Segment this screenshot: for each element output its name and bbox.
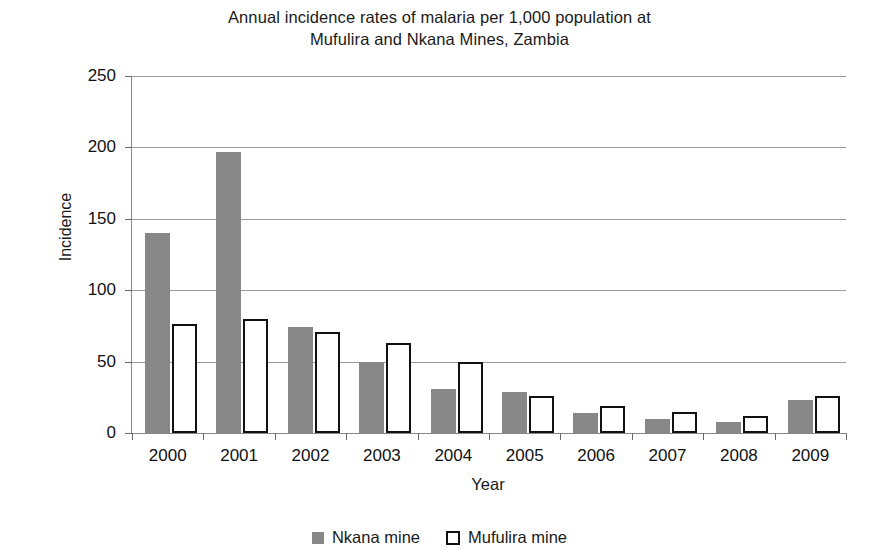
x-tickmark-4 xyxy=(418,433,419,440)
x-axis-title: Year xyxy=(131,475,845,494)
x-tickmark-9 xyxy=(775,433,776,440)
bar-group-2005 xyxy=(489,76,560,433)
y-tickmark-100 xyxy=(125,290,132,291)
y-tick-label-100: 100 xyxy=(54,280,116,300)
legend-label-nkana-mine: Nkana mine xyxy=(332,528,420,547)
bar-group-2004 xyxy=(418,76,489,433)
bar-mufulira-2000[interactable] xyxy=(172,324,197,433)
bar-nkana-2006[interactable] xyxy=(573,413,598,433)
bar-nkana-2000[interactable] xyxy=(145,233,170,433)
legend-label-mufulira-mine: Mufulira mine xyxy=(468,528,567,547)
bar-mufulira-2007[interactable] xyxy=(672,412,697,433)
x-tick-label-2009: 2009 xyxy=(775,446,846,466)
bar-mufulira-2008[interactable] xyxy=(743,416,768,433)
x-tickmark-6 xyxy=(560,433,561,440)
y-tick-label-200: 200 xyxy=(54,137,116,157)
outlined-white-square-icon xyxy=(446,531,460,545)
y-tick-label-250: 250 xyxy=(54,66,116,86)
bar-nkana-2009[interactable] xyxy=(788,400,813,433)
x-tickmark-8 xyxy=(703,433,704,440)
y-tickmark-50 xyxy=(125,362,132,363)
bar-nkana-2004[interactable] xyxy=(431,389,456,433)
bar-mufulira-2004[interactable] xyxy=(458,362,483,433)
legend-item-nkana-mine[interactable]: Nkana mine xyxy=(312,528,420,547)
x-tick-label-2008: 2008 xyxy=(703,446,774,466)
bar-group-2007 xyxy=(632,76,703,433)
bar-group-2001 xyxy=(203,76,274,433)
x-tickmark-3 xyxy=(346,433,347,440)
bar-group-2003 xyxy=(346,76,417,433)
bar-nkana-2001[interactable] xyxy=(216,152,241,433)
bar-group-2000 xyxy=(132,76,203,433)
bar-nkana-2005[interactable] xyxy=(502,392,527,433)
x-tick-label-2002: 2002 xyxy=(275,446,346,466)
bar-nkana-2002[interactable] xyxy=(288,327,313,433)
x-tickmark-5 xyxy=(489,433,490,440)
y-tickmark-250 xyxy=(125,76,132,77)
bar-mufulira-2002[interactable] xyxy=(315,332,340,433)
x-tick-label-2001: 2001 xyxy=(203,446,274,466)
y-tickmark-0 xyxy=(125,433,132,434)
y-tickmark-150 xyxy=(125,219,132,220)
x-tick-label-2003: 2003 xyxy=(346,446,417,466)
bar-group-2008 xyxy=(703,76,774,433)
bar-mufulira-2005[interactable] xyxy=(529,396,554,433)
plot-area: 2000 2001 2002 2003 2004 2005 2006 2007 … xyxy=(131,76,846,434)
y-axis-tick-labels: 0 50 100 150 200 250 xyxy=(54,0,116,556)
chart-legend: Nkana mine Mufulira mine xyxy=(0,528,879,547)
x-tickmark-10 xyxy=(846,433,847,440)
filled-gray-square-icon xyxy=(312,532,324,544)
x-tick-label-2006: 2006 xyxy=(560,446,631,466)
bar-group-2009 xyxy=(775,76,846,433)
x-tick-label-2005: 2005 xyxy=(489,446,560,466)
bar-mufulira-2009[interactable] xyxy=(815,396,840,433)
x-tickmark-7 xyxy=(632,433,633,440)
y-tickmark-200 xyxy=(125,147,132,148)
x-tick-label-2007: 2007 xyxy=(632,446,703,466)
bar-group-2006 xyxy=(560,76,631,433)
bar-nkana-2003[interactable] xyxy=(359,362,384,433)
y-tick-label-50: 50 xyxy=(54,352,116,372)
bar-mufulira-2006[interactable] xyxy=(600,406,625,433)
bar-nkana-2007[interactable] xyxy=(645,419,670,433)
bar-mufulira-2003[interactable] xyxy=(386,343,411,433)
x-tickmark-1 xyxy=(203,433,204,440)
y-tick-label-0: 0 xyxy=(54,423,116,443)
bar-nkana-2008[interactable] xyxy=(716,422,741,433)
bar-mufulira-2001[interactable] xyxy=(243,319,268,433)
x-tick-label-2004: 2004 xyxy=(418,446,489,466)
plot-wrapper: Incidence 0 50 100 150 200 250 xyxy=(0,0,879,556)
x-tick-label-2000: 2000 xyxy=(132,446,203,466)
bar-group-2002 xyxy=(275,76,346,433)
x-tickmark-2 xyxy=(275,433,276,440)
legend-item-mufulira-mine[interactable]: Mufulira mine xyxy=(446,528,567,547)
y-tick-label-150: 150 xyxy=(54,209,116,229)
x-tickmark-0 xyxy=(132,433,133,440)
